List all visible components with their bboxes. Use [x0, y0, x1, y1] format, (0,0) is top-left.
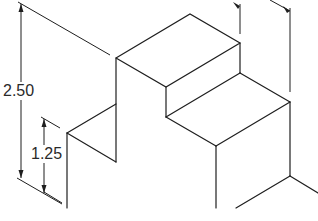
- bottom-right-edge: [290, 176, 318, 193]
- object-geometry: [67, 14, 318, 208]
- bottom-front-edge: [236, 176, 290, 208]
- arrow-icon: [283, 6, 290, 13]
- isometric-drawing: [0, 0, 318, 221]
- ext-line-bottom-2-50: [17, 178, 62, 204]
- arrow-down-icon: [19, 170, 24, 178]
- notch-lower-edge: [67, 133, 116, 162]
- arrow-down-icon: [42, 185, 47, 193]
- dimension-label-2-50: 2.50: [3, 82, 34, 100]
- upper-step-top-face: [116, 14, 240, 87]
- upper-riser-bottom-edge: [166, 73, 240, 117]
- dimension-lines: [17, 0, 290, 204]
- lower-step-back-edge: [240, 73, 290, 102]
- lower-step-front-edge: [216, 102, 290, 146]
- ext-line-top-2-50: [18, 2, 110, 55]
- arrow-icon: [233, 2, 240, 9]
- ext-line-bottom-1-25: [44, 192, 62, 203]
- dimension-label-1-25: 1.25: [31, 145, 62, 163]
- notch-upper-edge: [67, 104, 116, 133]
- lower-step-left-edge: [166, 117, 216, 146]
